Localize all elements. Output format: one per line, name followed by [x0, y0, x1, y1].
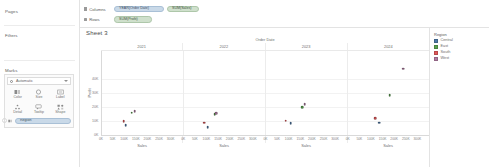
column-header-2023[interactable]: 2023	[265, 43, 347, 50]
marks-label-button[interactable]: Label	[50, 88, 71, 102]
pages-shelf-label: Pages	[5, 9, 18, 14]
data-point[interactable]	[215, 112, 218, 115]
sheet-title: Sheet 3	[84, 30, 429, 36]
column-headers: 2021202220232024	[101, 43, 429, 51]
plot-area: Profit 0K10K20K30K40K	[84, 51, 429, 135]
legend-swatch	[434, 57, 438, 61]
x-tick-label: 50K	[274, 137, 280, 141]
circle-mark-icon	[10, 79, 14, 83]
data-point[interactable]	[301, 106, 304, 109]
data-point[interactable]	[206, 126, 209, 129]
gridline	[102, 93, 183, 94]
marks-detail-label: Detail	[13, 111, 22, 115]
rows-pill-list: SUM(Profit)	[114, 16, 152, 22]
facet-panel-2021[interactable]	[102, 51, 183, 135]
legend-swatch	[434, 51, 438, 55]
gridline	[184, 121, 265, 122]
x-tick-label: 200K	[226, 137, 234, 141]
x-tick-label: 250K	[402, 137, 410, 141]
x-tick-label: 150K	[132, 137, 140, 141]
color-palette-icon	[8, 118, 13, 123]
marks-size-button[interactable]: Size	[28, 88, 49, 102]
legend-item-west[interactable]: West	[434, 56, 486, 62]
pill-sum-sales[interactable]: SUM(Sales)	[167, 6, 199, 12]
x-tick-label: 50K	[110, 137, 116, 141]
viz-canvas: Sheet 3 Order Date 2021202220232024 Prof…	[80, 28, 489, 168]
data-point[interactable]	[289, 122, 292, 125]
data-point[interactable]	[402, 67, 405, 70]
x-tick-label: 0K	[99, 137, 103, 141]
marks-shape-button[interactable]: Shape	[50, 102, 71, 116]
marks-tooltip-button[interactable]: Tooltip	[28, 102, 49, 116]
data-point[interactable]	[304, 103, 307, 106]
facet-panel-2023[interactable]	[265, 51, 347, 135]
x-tick-label: 150K	[214, 137, 222, 141]
x-tick-label: 250K	[155, 137, 163, 141]
data-point[interactable]	[125, 124, 128, 127]
columns-shelf-name: Columns	[84, 7, 110, 12]
data-point[interactable]	[122, 120, 125, 123]
tooltip-icon	[35, 103, 43, 110]
gridline	[348, 79, 429, 80]
detail-icon	[14, 103, 22, 110]
marks-color-shelf: Region	[7, 118, 71, 124]
marks-card: Automatic Color	[4, 74, 74, 128]
x-tick-label: 100K	[285, 137, 293, 141]
column-header-2024[interactable]: 2024	[347, 43, 429, 50]
color-legend: Region CentralEastSouthWest	[429, 28, 489, 168]
x-tick-label: 50K	[356, 137, 362, 141]
x-tick-label: 200K	[390, 137, 398, 141]
x-axis-title: Sales	[265, 143, 347, 149]
mark-type-dropdown[interactable]: Automatic	[7, 77, 71, 85]
pill-year-order-date[interactable]: YEAR(Order Date)	[114, 6, 164, 12]
data-point[interactable]	[203, 121, 206, 124]
data-point[interactable]	[133, 110, 136, 113]
chevron-down-icon[interactable]	[64, 80, 68, 82]
legend-label: West	[441, 57, 450, 61]
facet-panel-2024[interactable]	[347, 51, 429, 135]
shape-icon	[56, 103, 64, 110]
scatter-matrix: Order Date 2021202220232024 Profit 0K10K…	[84, 37, 429, 165]
data-point[interactable]	[378, 121, 381, 124]
gridline	[348, 121, 429, 122]
x-tick-label: 200K	[144, 137, 152, 141]
marks-tooltip-label: Tooltip	[34, 111, 44, 115]
x-tick-label: 100K	[367, 137, 375, 141]
pill-sum-profit[interactable]: SUM(Profit)	[114, 16, 152, 22]
x-axis-panel-2023: 0K50K100K150K200K250K300K	[265, 136, 347, 143]
rows-shelf[interactable]: Rows SUM(Profit)	[84, 16, 485, 24]
data-point[interactable]	[388, 94, 391, 97]
x-tick-label: 100K	[120, 137, 128, 141]
x-tick-label: 250K	[237, 137, 245, 141]
gridline	[184, 107, 265, 108]
column-header-2021[interactable]: 2021	[101, 43, 182, 50]
data-point[interactable]	[374, 117, 377, 120]
gridline	[266, 93, 347, 94]
marks-detail-button[interactable]: Detail	[7, 102, 28, 116]
data-point[interactable]	[285, 119, 288, 122]
x-tick-label: 200K	[308, 137, 316, 141]
legend-label: East	[441, 45, 449, 49]
panel-scroll-handle[interactable]	[2, 118, 7, 123]
x-tick-label: 150K	[379, 137, 387, 141]
filters-shelf-label: Filters	[5, 33, 18, 38]
rows-shelf-label: Rows	[89, 17, 99, 22]
facet-panels	[102, 51, 429, 135]
legend-title: Region	[434, 32, 486, 37]
x-tick-label: 0K	[346, 137, 350, 141]
marks-color-pill[interactable]: Region	[15, 118, 71, 124]
marks-color-button[interactable]: Color	[7, 88, 28, 102]
gridline	[102, 79, 183, 80]
columns-pill-list: YEAR(Order Date) SUM(Sales)	[114, 6, 199, 12]
x-axis-panel-2024: 0K50K100K150K200K250K300K	[347, 136, 429, 143]
y-tick-label: 0K	[94, 133, 98, 137]
columns-shelf[interactable]: Columns YEAR(Order Date) SUM(Sales)	[84, 5, 485, 13]
gridline	[184, 79, 265, 80]
x-axis-titles: SalesSalesSalesSales	[101, 143, 429, 149]
marks-color-label: Color	[13, 96, 21, 100]
column-header-2022[interactable]: 2022	[182, 43, 264, 50]
gridline	[266, 107, 347, 108]
y-tick-label: 10K	[92, 119, 98, 123]
tableau-worksheet: Pages Filters Marks Automatic	[0, 0, 489, 167]
facet-panel-2022[interactable]	[183, 51, 265, 135]
